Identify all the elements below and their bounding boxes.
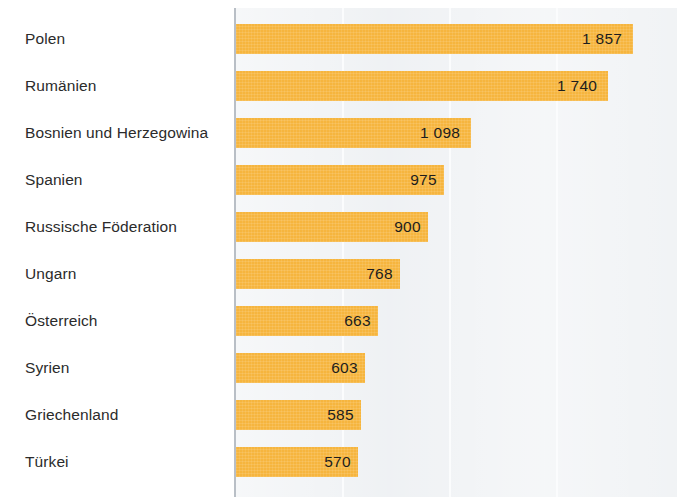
category-label: Ungarn — [25, 259, 76, 289]
bar-row: Bosnien und Herzegowina 1 098 — [0, 118, 677, 148]
category-label: Syrien — [25, 353, 70, 383]
category-label: Russische Föderation — [25, 212, 177, 242]
bar-row: Polen 1 857 — [0, 24, 677, 54]
bar[interactable] — [236, 24, 633, 54]
category-label: Spanien — [25, 165, 83, 195]
bar-row: Russische Föderation 900 — [0, 212, 677, 242]
category-label: Griechenland — [25, 400, 118, 430]
bar[interactable] — [236, 71, 608, 101]
bar-value-label: 975 — [410, 165, 437, 195]
bar-value-label: 585 — [327, 400, 354, 430]
category-label: Rumänien — [25, 71, 96, 101]
category-label: Polen — [25, 24, 65, 54]
category-label: Türkei — [25, 447, 69, 477]
bar-value-label: 1 857 — [582, 24, 622, 54]
bar-row: Griechenland 585 — [0, 400, 677, 430]
bar-value-label: 1 740 — [557, 71, 597, 101]
bar-row: Ungarn 768 — [0, 259, 677, 289]
category-axis-spine — [234, 8, 236, 497]
bar-value-label: 1 098 — [420, 118, 460, 148]
bar-value-label: 603 — [331, 353, 358, 383]
bar-value-label: 768 — [366, 259, 393, 289]
bar-row: Österreich 663 — [0, 306, 677, 336]
bar-chart: Polen 1 857 Rumänien 1 740 Bosnien und H… — [0, 0, 677, 504]
category-label: Österreich — [25, 306, 98, 336]
bar-value-label: 663 — [344, 306, 371, 336]
bar-value-label: 900 — [394, 212, 421, 242]
bar-row: Rumänien 1 740 — [0, 71, 677, 101]
category-label: Bosnien und Herzegowina — [25, 118, 208, 148]
bar-row: Syrien 603 — [0, 353, 677, 383]
bar-row: Spanien 975 — [0, 165, 677, 195]
bar-row: Türkei 570 — [0, 447, 677, 477]
bar-value-label: 570 — [324, 447, 351, 477]
